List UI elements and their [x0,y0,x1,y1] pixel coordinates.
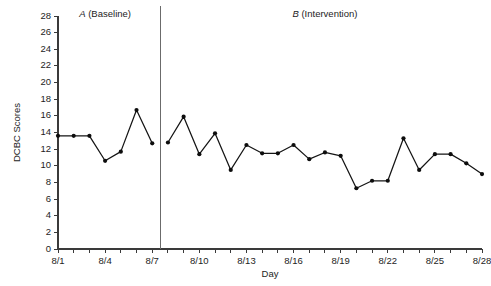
data-point [150,141,154,145]
data-point [119,150,123,154]
x-tick-label: 8/28 [473,255,491,266]
chart-container: 0246810121416182022242628 8/18/48/78/108… [0,0,491,286]
data-point [166,140,170,144]
x-tick-label: 8/4 [99,255,112,266]
y-tick-label: 0 [46,243,51,254]
data-point [87,134,91,138]
data-point [213,131,217,135]
data-point [339,154,343,158]
y-axis-title: DCBC Scores [11,103,22,162]
data-point [480,172,484,176]
x-tick-label: 8/16 [284,255,303,266]
data-point [323,150,327,154]
dcbc-scores-line-chart: 0246810121416182022242628 8/18/48/78/108… [0,0,491,286]
y-tick-label: 10 [40,159,51,170]
y-tick-label: 16 [40,109,51,120]
data-point [260,151,264,155]
data-point [448,152,452,156]
phase-letter: A [78,8,85,19]
data-point [134,108,138,112]
y-tick-label: 26 [40,26,51,37]
data-point [182,115,186,119]
y-tick-label: 8 [46,176,51,187]
phase-a-label: A (Baseline) [78,8,131,19]
y-tick-label: 20 [40,76,51,87]
data-point [433,152,437,156]
series-polyline [58,110,482,188]
series-point-group [56,108,484,190]
x-tick-label: 8/25 [426,255,445,266]
data-point [417,168,421,172]
x-tick-label: 8/19 [331,255,350,266]
y-tick-label: 22 [40,59,51,70]
data-point [229,168,233,172]
data-point [72,134,76,138]
x-tick-label: 8/7 [146,255,159,266]
y-tick-label: 18 [40,93,51,104]
x-tick-label: 8/13 [237,255,256,266]
x-axis-title: Day [262,268,279,279]
phase-b-label: B (Intervention) [292,8,357,19]
phase-description: (Intervention) [299,8,358,19]
y-tick-label: 14 [40,126,51,137]
data-point [401,136,405,140]
data-point [244,143,248,147]
data-point [291,143,295,147]
data-point [307,157,311,161]
y-axis-tick-group: 0246810121416182022242628 [40,10,58,254]
x-tick-label: 8/10 [190,255,209,266]
data-point [197,152,201,156]
y-tick-label: 28 [40,10,51,21]
y-tick-label: 12 [40,143,51,154]
y-tick-label: 4 [46,209,51,220]
x-tick-label: 8/22 [379,255,398,266]
x-tick-label: 8/1 [51,255,64,266]
data-point [103,159,107,163]
phase-description: (Baseline) [86,8,131,19]
data-point [354,186,358,190]
y-tick-label: 2 [46,226,51,237]
y-tick-label: 6 [46,193,51,204]
y-tick-label: 24 [40,43,51,54]
data-point [386,179,390,183]
data-point [464,161,468,165]
data-point [56,134,60,138]
data-point [370,179,374,183]
x-axis-tick-group: 8/18/48/78/108/138/168/198/228/258/28 [51,249,491,266]
data-point [276,151,280,155]
